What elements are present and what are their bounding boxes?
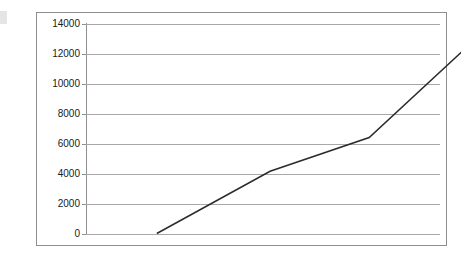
series-layer <box>0 0 461 258</box>
chart-figure: 02000400060008000100001200014000 <box>0 0 461 258</box>
line-series-path <box>157 49 461 234</box>
